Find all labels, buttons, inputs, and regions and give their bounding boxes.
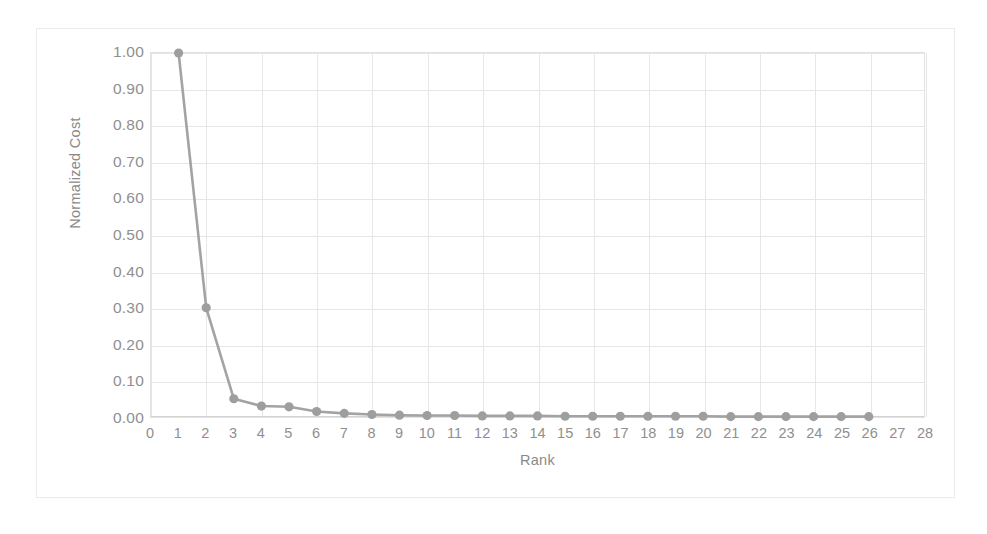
x-axis-tick-label: 11 (447, 425, 462, 441)
x-axis-tick-label: 10 (419, 425, 435, 441)
x-axis-tick-label: 4 (257, 425, 265, 441)
data-point (422, 411, 431, 420)
y-axis-tick-label: 1.00 (113, 43, 144, 61)
data-point (312, 407, 321, 416)
x-axis-tick-label: 14 (529, 425, 545, 441)
y-axis-tick-label: 0.50 (113, 226, 144, 244)
x-axis-tick-label: 20 (695, 425, 711, 441)
x-axis-tick-labels: 0123456789101112131415161718192021222324… (150, 425, 925, 447)
x-axis-tick-label: 24 (806, 425, 822, 441)
y-axis-tick-label: 0.70 (113, 153, 144, 171)
data-point (450, 411, 459, 420)
x-axis-tick-label: 18 (640, 425, 656, 441)
y-axis-tick-label: 0.40 (113, 263, 144, 281)
data-point (533, 411, 542, 420)
x-axis-tick-label: 9 (395, 425, 403, 441)
x-axis-tick-label: 6 (312, 425, 320, 441)
x-axis-tick-label: 2 (201, 425, 209, 441)
data-point (257, 402, 266, 411)
y-axis-tick-label: 0.00 (113, 409, 144, 427)
data-point (174, 48, 183, 57)
data-point (395, 411, 404, 420)
x-axis-tick-label: 1 (174, 425, 182, 441)
chart-figure: Normalized Cost 0.000.100.200.300.400.50… (36, 28, 955, 498)
x-axis-tick-label: 7 (340, 425, 348, 441)
x-axis-tick-label: 19 (668, 425, 684, 441)
x-axis-title: Rank (150, 452, 925, 468)
x-axis-tick-label: 0 (146, 425, 154, 441)
series-line (179, 53, 869, 417)
data-point (616, 412, 625, 421)
data-point (505, 411, 514, 420)
x-axis-tick-label: 27 (889, 425, 905, 441)
plot-area (150, 52, 925, 418)
data-point (864, 412, 873, 421)
x-axis-tick-label: 21 (723, 425, 739, 441)
data-point (367, 410, 376, 419)
data-point (284, 402, 293, 411)
data-point (340, 409, 349, 418)
data-point (754, 412, 763, 421)
x-axis-tick-label: 12 (474, 425, 490, 441)
x-axis-tick-label: 25 (834, 425, 850, 441)
y-axis-tick-label: 0.20 (113, 336, 144, 354)
y-axis-tick-label: 0.10 (113, 372, 144, 390)
x-axis-tick-label: 5 (284, 425, 292, 441)
data-point (561, 412, 570, 421)
gridline-vertical (926, 53, 927, 417)
x-axis-tick-label: 13 (502, 425, 518, 441)
data-point (809, 412, 818, 421)
x-axis-tick-label: 28 (917, 425, 933, 441)
x-axis-tick-label: 3 (229, 425, 237, 441)
series-markers (174, 48, 873, 421)
y-axis-tick-label: 0.30 (113, 299, 144, 317)
data-point (478, 411, 487, 420)
y-axis-tick-labels: 0.000.100.200.300.400.500.600.700.800.90… (73, 52, 144, 418)
x-axis-tick-label: 8 (367, 425, 375, 441)
y-axis-tick-label: 0.90 (113, 80, 144, 98)
data-point (229, 394, 238, 403)
data-point (726, 412, 735, 421)
x-axis-tick-label: 16 (585, 425, 601, 441)
data-point (202, 303, 211, 312)
data-point (781, 412, 790, 421)
data-point (699, 412, 708, 421)
data-point (837, 412, 846, 421)
x-axis-tick-label: 22 (751, 425, 767, 441)
x-axis-tick-label: 15 (557, 425, 573, 441)
data-point (588, 412, 597, 421)
x-axis-tick-label: 26 (862, 425, 878, 441)
y-axis-tick-label: 0.60 (113, 189, 144, 207)
x-axis-tick-label: 23 (779, 425, 795, 441)
data-point (671, 412, 680, 421)
data-point (643, 412, 652, 421)
x-axis-tick-label: 17 (612, 425, 628, 441)
y-axis-tick-label: 0.80 (113, 116, 144, 134)
series-plot (151, 53, 924, 417)
